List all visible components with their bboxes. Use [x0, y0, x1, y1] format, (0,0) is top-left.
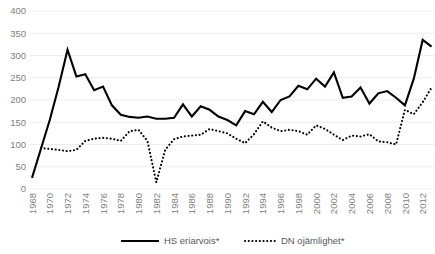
x-axis-tick-label: 1970	[44, 193, 55, 214]
chart-container: 050100150200250300350400 196819701972197…	[0, 0, 435, 254]
x-axis-tick-label: 2008	[382, 193, 393, 214]
series-line-1	[32, 40, 432, 178]
x-axis-tick-labels: 1968197019721974197619781980198219841986…	[27, 193, 429, 214]
y-axis-tick-label: 400	[10, 5, 26, 16]
y-axis-tick-label: 0	[21, 183, 26, 194]
x-axis-tick-label: 1972	[62, 193, 73, 214]
y-axis-tick-labels: 050100150200250300350400	[10, 5, 26, 194]
x-axis-tick-label: 2004	[346, 193, 357, 214]
x-axis-tick-label: 1968	[27, 193, 38, 214]
x-axis-tick-label: 2000	[311, 193, 322, 214]
x-axis-tick-label: 1992	[240, 193, 251, 214]
y-axis-tick-label: 300	[10, 50, 26, 61]
y-axis-tick-label: 150	[10, 117, 26, 128]
y-axis-tick-label: 50	[15, 161, 26, 172]
x-axis-tick-label: 2006	[364, 193, 375, 214]
x-axis-tick-label: 2010	[400, 193, 411, 214]
y-axis-tick-label: 100	[10, 139, 26, 150]
series-line-2	[41, 88, 432, 183]
x-axis-tick-label: 2002	[328, 193, 339, 214]
x-axis-tick-label: 1998	[293, 193, 304, 214]
x-axis-tick-label: 1984	[169, 193, 180, 214]
x-axis-tick-label: 1978	[115, 193, 126, 214]
x-axis-tick-label: 1990	[222, 193, 233, 214]
x-axis-tick-label: 1976	[98, 193, 109, 214]
x-axis-tick-label: 1986	[186, 193, 197, 214]
x-axis-tick-label: 1996	[275, 193, 286, 214]
legend-label-1[interactable]: HS eriarvois*	[164, 235, 220, 246]
data-series	[32, 40, 432, 182]
y-axis-tick-label: 200	[10, 94, 26, 105]
line-chart: 050100150200250300350400 196819701972197…	[0, 0, 435, 254]
x-axis-tick-label: 1974	[80, 193, 91, 214]
y-axis-tick-label: 350	[10, 28, 26, 39]
x-axis-tick-label: 1994	[257, 193, 268, 214]
y-axis-tick-label: 250	[10, 72, 26, 83]
legend-label-2[interactable]: DN ojämlighet*	[281, 235, 345, 246]
x-axis-tick-label: 2012	[417, 193, 428, 214]
x-axis-tick-label: 1980	[133, 193, 144, 214]
x-axis-tick-label: 1988	[204, 193, 215, 214]
chart-legend: HS eriarvois*DN ojämlighet*	[121, 235, 345, 246]
x-axis-tick-label: 1982	[151, 193, 162, 214]
